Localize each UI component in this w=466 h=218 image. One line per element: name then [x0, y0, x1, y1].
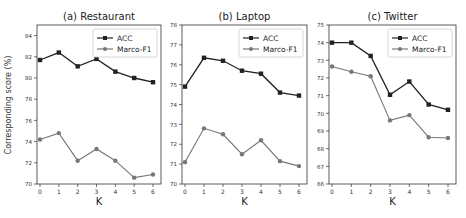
legend-label: Marco-F1: [117, 45, 152, 54]
panel-twitter: (c) Twitter666768697071727374750123456KA…: [317, 11, 456, 207]
x-tick-label: 6: [151, 188, 155, 195]
legend-label: ACC: [412, 34, 427, 43]
y-tick-label: 73: [170, 122, 177, 128]
data-point: [259, 138, 263, 142]
y-tick-label: 78: [170, 22, 177, 28]
data-point: [388, 118, 392, 122]
y-tick-label: 80: [25, 75, 32, 81]
legend-label: Marco-F1: [412, 45, 447, 54]
data-point: [57, 50, 61, 54]
data-point: [278, 159, 282, 163]
chart-title: (b) Laptop: [219, 11, 271, 22]
x-tick-label: 1: [57, 188, 61, 195]
figure: Corresponding score (%) (a) Restaurant70…: [0, 0, 466, 218]
y-tick-label: 67: [317, 164, 324, 170]
data-point: [446, 136, 450, 140]
chart-title: (c) Twitter: [368, 11, 419, 22]
legend-marker-circle: [398, 47, 402, 51]
x-tick-label: 5: [427, 188, 431, 195]
data-point: [240, 152, 244, 156]
data-point: [221, 132, 225, 136]
y-tick-label: 70: [25, 181, 32, 187]
legend-marker-circle: [249, 47, 253, 51]
data-point: [38, 137, 42, 141]
y-tick-label: 74: [317, 40, 324, 46]
y-tick-label: 76: [25, 118, 32, 124]
x-tick-label: 6: [446, 188, 450, 195]
data-point: [330, 40, 334, 44]
data-point: [330, 64, 334, 68]
data-point: [221, 59, 225, 63]
y-tick-label: 69: [317, 128, 324, 134]
data-point: [132, 175, 136, 179]
data-point: [132, 76, 136, 80]
data-point: [75, 64, 79, 68]
y-tick-label: 70: [317, 111, 324, 117]
data-point: [368, 74, 372, 78]
data-point: [259, 71, 263, 75]
x-tick-label: 4: [407, 188, 411, 195]
y-tick-label: 82: [25, 54, 32, 60]
data-point: [407, 113, 411, 117]
y-tick-label: 75: [170, 82, 177, 88]
data-point: [388, 93, 392, 97]
x-tick-label: 0: [183, 188, 187, 195]
y-tick-label: 71: [170, 161, 177, 167]
y-tick-label: 74: [170, 102, 177, 108]
x-tick-label: 1: [349, 188, 353, 195]
data-point: [75, 158, 79, 162]
data-point: [202, 126, 206, 130]
x-tick-label: 1: [202, 188, 206, 195]
data-point: [240, 69, 244, 73]
x-tick-label: 2: [369, 188, 373, 195]
data-point: [446, 108, 450, 112]
x-axis-label: K: [241, 196, 248, 207]
x-tick-label: 0: [38, 188, 42, 195]
data-point: [297, 164, 301, 168]
y-tick-label: 71: [317, 93, 324, 99]
data-point: [407, 79, 411, 83]
data-point: [426, 102, 430, 106]
legend-marker-square: [249, 36, 253, 40]
y-tick-label: 76: [170, 62, 177, 68]
legend-marker-square: [398, 36, 402, 40]
legend-label: Marco-F1: [263, 45, 298, 54]
y-tick-label: 75: [317, 22, 324, 28]
x-tick-label: 2: [221, 188, 225, 195]
data-point: [349, 40, 353, 44]
x-tick-label: 5: [132, 188, 136, 195]
legend-marker-square: [103, 36, 107, 40]
x-axis-label: K: [389, 196, 396, 207]
legend-label: ACC: [263, 34, 278, 43]
data-point: [202, 56, 206, 60]
data-point: [368, 54, 372, 58]
data-point: [151, 80, 155, 84]
y-tick-label: 72: [170, 141, 177, 147]
chart-canvas: Corresponding score (%) (a) Restaurant70…: [0, 0, 466, 218]
panel-restaurant: (a) Restaurant70727476788082840123456KAC…: [25, 11, 161, 207]
y-tick-label: 78: [25, 96, 32, 102]
series-line-marco-f1: [332, 67, 448, 139]
x-tick-label: 4: [113, 188, 117, 195]
y-tick-label: 84: [25, 33, 32, 39]
y-tick-label: 66: [317, 181, 324, 187]
data-point: [426, 135, 430, 139]
data-point: [349, 70, 353, 74]
y-tick-label: 74: [25, 139, 32, 145]
x-tick-label: 0: [330, 188, 334, 195]
x-tick-label: 5: [278, 188, 282, 195]
y-axis-label: Corresponding score (%): [4, 56, 13, 155]
panel-laptop: (b) Laptop7071727374757677780123456KACCM…: [170, 11, 307, 207]
data-point: [57, 131, 61, 135]
y-tick-label: 72: [25, 160, 32, 166]
data-point: [278, 90, 282, 94]
data-point: [94, 147, 98, 151]
x-tick-label: 6: [297, 188, 301, 195]
x-tick-label: 3: [388, 188, 392, 195]
data-point: [183, 84, 187, 88]
legend-label: ACC: [117, 34, 132, 43]
y-tick-label: 77: [170, 42, 177, 48]
series-line-acc: [185, 58, 299, 96]
data-point: [113, 69, 117, 73]
chart-title: (a) Restaurant: [63, 11, 135, 22]
